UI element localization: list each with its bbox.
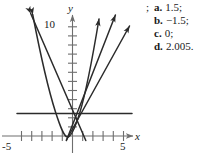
choice-letter-b: b. bbox=[154, 14, 163, 27]
coordinate-plane-graph: y x 10 -5 5 bbox=[0, 0, 145, 159]
choice-letter-c: c. bbox=[154, 27, 162, 40]
x-axis-label: x bbox=[135, 131, 140, 142]
choice-value-d: 2.005. bbox=[166, 40, 194, 53]
curve-parabola bbox=[33, 15, 99, 138]
choice-value-a: 1.5; bbox=[165, 1, 182, 14]
choice-letter-d: d. bbox=[154, 40, 163, 53]
answer-choice-list: ; a.1.5; b.−1.5; c.0; d.2.005. bbox=[146, 0, 205, 60]
answer-choice-d[interactable]: d.2.005. bbox=[146, 40, 193, 53]
graph-svg bbox=[0, 0, 145, 159]
curves-group bbox=[17, 14, 132, 141]
curve-line-steep-positive bbox=[66, 15, 115, 141]
y-axis-label: y bbox=[68, 3, 73, 14]
x-tick-label-negative-5: -5 bbox=[2, 141, 11, 152]
choice-letter-a: a. bbox=[154, 1, 162, 14]
answer-choice-c[interactable]: c.0; bbox=[146, 27, 173, 40]
y-tick-label-10: 10 bbox=[44, 19, 55, 30]
figure-with-answer-choices: y x 10 -5 5 ; a.1.5; b.−1.5; c.0; d.2.00… bbox=[0, 0, 205, 159]
answer-choice-a[interactable]: a.1.5; bbox=[146, 1, 182, 14]
choice-value-c: 0; bbox=[165, 27, 174, 40]
choice-value-b: −1.5; bbox=[166, 14, 189, 27]
curve-line-shallow-positive bbox=[66, 26, 129, 140]
x-tick-label-5: 5 bbox=[120, 141, 126, 152]
answer-choice-b[interactable]: b.−1.5; bbox=[146, 14, 189, 27]
axis-group bbox=[2, 15, 133, 153]
